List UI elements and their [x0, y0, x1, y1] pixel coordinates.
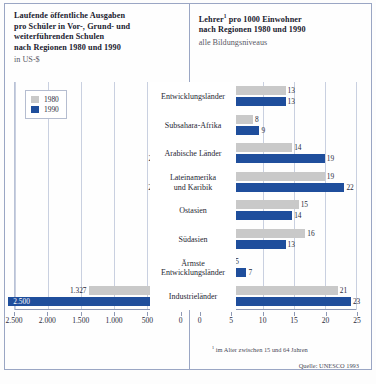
- bar-value-label: 19: [327, 172, 334, 181]
- legend-item-1990: 1990: [31, 105, 59, 114]
- left-title-line-3: weiterführenden Schulen: [14, 32, 181, 43]
- axis-tick-label: 5: [229, 316, 233, 325]
- gridline: [356, 82, 357, 310]
- source-note: Quelle: UNESCO 1993: [299, 362, 359, 369]
- bar-value-label: 1.327: [70, 286, 87, 295]
- axis-tick-label: 15: [290, 316, 298, 325]
- footnote-text: im Alter zwischen 15 und 64 Jahren: [216, 346, 308, 353]
- legend-label-1980: 1980: [44, 95, 59, 104]
- footnote: 1 im Alter zwischen 15 und 64 Jahren: [212, 345, 308, 353]
- bar-value-label: 21: [340, 286, 347, 295]
- left-title-line-2: pro Schüler in Vor-, Grund- und: [14, 22, 181, 33]
- left-x-axis: 2.5002.0001.5001.0005000: [14, 312, 181, 328]
- legend-item-1980: 1980: [31, 95, 59, 104]
- bar-value-label: 22: [346, 183, 353, 192]
- bar-value-label: 14: [294, 143, 301, 152]
- axis-tick-label: 2.500: [5, 316, 22, 325]
- category-label: Arabische Länder: [150, 149, 236, 159]
- bar-value-label: 14: [294, 211, 301, 220]
- legend: 1980 1990: [25, 90, 67, 119]
- bar-value-label: 7: [248, 268, 252, 277]
- legend-swatch-1980-icon: [31, 96, 39, 103]
- footnote-number: 1: [212, 345, 215, 350]
- right-title-line-2: nach Regionen 1980 und 1990: [199, 25, 363, 36]
- left-subtitle: in US-$: [14, 54, 181, 65]
- category-label: Industrieländer: [150, 292, 236, 302]
- right-title-block: Lehrer1 pro 1000 Einwohner nach Regionen…: [190, 4, 371, 48]
- bar-value-label: 8: [255, 115, 259, 124]
- axis-tick-label: 2.000: [39, 316, 56, 325]
- right-title-line-1: Lehrer1 pro 1000 Einwohner: [199, 11, 363, 25]
- right-title-rest: pro 1000 Einwohner: [227, 15, 302, 24]
- bar-value-label: 15: [301, 200, 308, 209]
- axis-tick-label: 20: [322, 316, 330, 325]
- bar-value-label: 2.500: [13, 297, 30, 306]
- bar-value-label: 13: [288, 240, 295, 249]
- bar-value-label: 19: [327, 154, 334, 163]
- bar-value-label: 23: [353, 297, 360, 306]
- left-title-line-4: nach Regionen 1980 und 1990: [14, 43, 181, 54]
- category-label: Südasien: [150, 235, 236, 245]
- axis-tick-label: 1.500: [72, 316, 89, 325]
- category-label: Ostasien: [150, 206, 236, 216]
- category-label: Subsahara-Afrika: [150, 121, 236, 131]
- right-title-word: Lehrer: [199, 15, 224, 24]
- bar-value-label: 13: [288, 97, 295, 106]
- legend-swatch-1990-icon: [31, 106, 39, 113]
- axis-tick-label: 10: [259, 316, 267, 325]
- right-subtitle: alle Bildungsniveaus: [199, 37, 363, 48]
- axis-tick-label: 500: [142, 316, 153, 325]
- category-label-column: EntwicklungsländerSubsahara-AfrikaArabis…: [150, 82, 236, 310]
- category-label: ÄrmsteEntwicklungsländer: [150, 259, 236, 278]
- axis-tick-label: 0: [198, 316, 202, 325]
- left-title-line-1: Laufende öffentliche Ausgaben: [14, 11, 181, 22]
- chart-frame: Laufende öffentliche Ausgaben pro Schüle…: [4, 3, 372, 370]
- chart-page: Laufende öffentliche Ausgaben pro Schüle…: [0, 0, 376, 384]
- right-x-axis: 0510152025: [200, 312, 357, 328]
- axis-tick-label: 25: [353, 316, 361, 325]
- bar-value-label: 9: [261, 126, 265, 135]
- category-label: Lateinamerikaund Karibik: [150, 173, 236, 192]
- axis-tick-label: 0: [179, 316, 183, 325]
- axis-tick-label: 1.000: [105, 316, 122, 325]
- category-label: Entwicklungsländer: [150, 92, 236, 102]
- bar-value-label: 13: [288, 86, 295, 95]
- left-title-block: Laufende öffentliche Ausgaben pro Schüle…: [5, 4, 189, 65]
- bar-value-label: 16: [307, 229, 314, 238]
- legend-label-1990: 1990: [44, 105, 59, 114]
